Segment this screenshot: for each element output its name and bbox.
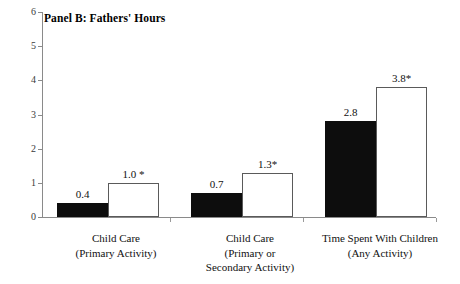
y-axis-tick: [38, 183, 43, 184]
bar-value-label: 3.8*: [376, 73, 427, 84]
bar-value-label: 0.4: [57, 189, 108, 200]
category-label-line: Time Spent With Children: [300, 231, 460, 246]
x-axis-tick: [303, 218, 304, 222]
y-axis-tick-label: 5: [6, 41, 36, 51]
bar-filled: [57, 203, 108, 217]
bar-value-label: 1.0 *: [108, 169, 159, 180]
bar-value-label: 0.7: [191, 179, 242, 190]
bar-filled: [191, 193, 242, 217]
category-label-line: Child Care: [46, 231, 186, 246]
category-label-line: Child Care: [180, 231, 320, 246]
x-axis-tick: [436, 218, 437, 222]
y-axis-tick-label: 4: [6, 75, 36, 85]
category-label-time-spent-with-children: Time Spent With Children (Any Activity): [300, 231, 460, 260]
bar-filled: [325, 121, 376, 217]
category-label-line: (Primary Activity): [46, 246, 186, 261]
category-label-line: Secondary Activity): [180, 260, 320, 275]
y-axis-tick: [38, 12, 43, 13]
category-label-child-care-primary: Child Care (Primary Activity): [46, 231, 186, 260]
y-axis-tick: [38, 149, 43, 150]
bar-hollow: [242, 173, 293, 217]
y-axis-tick-label: 3: [6, 110, 36, 120]
y-axis-tick: [38, 217, 43, 218]
bar-hollow: [376, 87, 427, 217]
category-label-line: (Primary or: [180, 246, 320, 261]
bar-hollow: [108, 183, 159, 217]
category-label-line: (Any Activity): [300, 246, 460, 261]
y-axis-tick: [38, 80, 43, 81]
category-label-child-care-primary-secondary: Child Care (Primary or Secondary Activit…: [180, 231, 320, 275]
bar-value-label: 1.3*: [242, 159, 293, 170]
plot-area: 0123456 0.40.72.81.0 *1.3*3.8* Child Car…: [0, 0, 460, 284]
x-axis-line: [42, 217, 436, 218]
y-axis-tick-label: 1: [6, 178, 36, 188]
y-axis-tick-label: 0: [6, 212, 36, 222]
y-axis-tick-label: 6: [6, 7, 36, 17]
bar-value-label: 2.8: [325, 107, 376, 118]
x-axis-tick: [170, 218, 171, 222]
chart-panel-b: Panel B: Fathers' Hours 0123456 0.40.72.…: [0, 0, 460, 284]
y-axis-tick: [38, 46, 43, 47]
y-axis-tick-label: 2: [6, 144, 36, 154]
y-axis-tick: [38, 115, 43, 116]
